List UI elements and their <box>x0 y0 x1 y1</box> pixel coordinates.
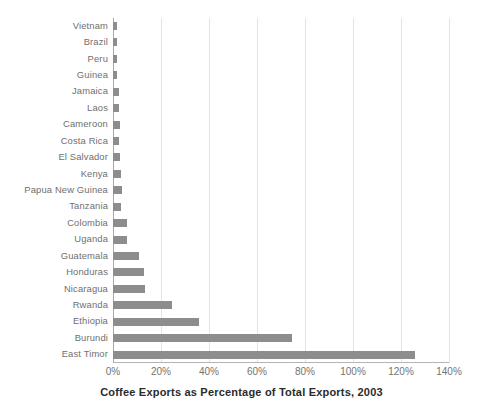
category-label: East Timor <box>0 348 108 359</box>
bar <box>113 236 127 244</box>
bar <box>113 252 139 260</box>
x-tick-label: 0% <box>106 366 120 377</box>
bar <box>113 104 119 112</box>
bar-row <box>113 248 449 264</box>
category-label: Laos <box>0 102 108 113</box>
category-label: Kenya <box>0 168 108 179</box>
bar <box>113 22 117 30</box>
bar <box>113 351 415 359</box>
bar <box>113 38 117 46</box>
category-label: Tanzania <box>0 200 108 211</box>
x-axis-tick-labels: 0%20%40%60%80%100%120%140% <box>113 366 449 382</box>
bar <box>113 318 199 326</box>
chart-axis-title: Coffee Exports as Percentage of Total Ex… <box>0 386 483 398</box>
gridline <box>449 18 450 363</box>
x-tick-label: 40% <box>199 366 219 377</box>
bar-row <box>113 281 449 297</box>
bar <box>113 55 117 63</box>
category-label: Honduras <box>0 266 108 277</box>
bar <box>113 203 121 211</box>
bar <box>113 121 120 129</box>
bar-row <box>113 149 449 165</box>
category-label: Peru <box>0 53 108 64</box>
category-label: Papua New Guinea <box>0 184 108 195</box>
category-label: Burundi <box>0 332 108 343</box>
bar-row <box>113 51 449 67</box>
category-label: Nicaragua <box>0 283 108 294</box>
category-label: Brazil <box>0 36 108 47</box>
bar-row <box>113 100 449 116</box>
bar-row <box>113 232 449 248</box>
bar-row <box>113 182 449 198</box>
bar <box>113 301 172 309</box>
category-label: Cameroon <box>0 118 108 129</box>
bar-row <box>113 264 449 280</box>
x-tick-label: 140% <box>436 366 462 377</box>
category-label: Colombia <box>0 217 108 228</box>
bar-row <box>113 18 449 34</box>
bar-row <box>113 166 449 182</box>
bar-row <box>113 34 449 50</box>
bar <box>113 137 119 145</box>
bar-row <box>113 347 449 363</box>
bar-row <box>113 330 449 346</box>
bar <box>113 285 145 293</box>
x-tick-label: 100% <box>340 366 366 377</box>
x-tick-label: 80% <box>295 366 315 377</box>
bar <box>113 71 117 79</box>
bar-row <box>113 67 449 83</box>
bar-row <box>113 117 449 133</box>
bar-row <box>113 84 449 100</box>
category-label: Ethiopia <box>0 315 108 326</box>
bar <box>113 186 122 194</box>
x-tick-label: 120% <box>388 366 414 377</box>
bar-row <box>113 314 449 330</box>
category-label: Guatemala <box>0 250 108 261</box>
bar <box>113 170 121 178</box>
category-label: Vietnam <box>0 20 108 31</box>
bar-row <box>113 297 449 313</box>
category-label: El Salvador <box>0 151 108 162</box>
bar-row <box>113 199 449 215</box>
x-axis-line <box>113 362 449 363</box>
bar-row <box>113 133 449 149</box>
bar <box>113 88 119 96</box>
coffee-exports-bar-chart: VietnamBrazilPeruGuineaJamaicaLaosCamero… <box>0 0 483 410</box>
bar <box>113 153 120 161</box>
category-label: Rwanda <box>0 299 108 310</box>
bar-row <box>113 215 449 231</box>
category-label: Costa Rica <box>0 135 108 146</box>
category-label: Uganda <box>0 233 108 244</box>
category-label: Guinea <box>0 69 108 80</box>
y-axis-category-labels: VietnamBrazilPeruGuineaJamaicaLaosCamero… <box>0 18 108 363</box>
bar <box>113 268 144 276</box>
x-tick-label: 20% <box>151 366 171 377</box>
plot-area <box>113 18 449 363</box>
x-tick-label: 60% <box>247 366 267 377</box>
bar <box>113 219 127 227</box>
category-label: Jamaica <box>0 85 108 96</box>
bar <box>113 334 292 342</box>
